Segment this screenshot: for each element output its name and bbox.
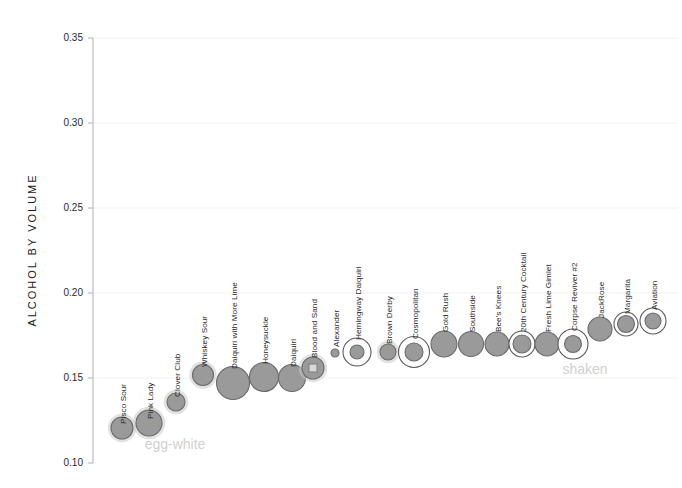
data-point-label: Daiquiri with More Lime: [230, 282, 239, 369]
group-annotation-shaken: shaken: [562, 361, 607, 377]
data-point[interactable]: [217, 367, 250, 400]
y-axis-tick-label: 0.35: [64, 32, 84, 43]
data-point-label: Honeysuckle: [261, 316, 270, 364]
y-axis-tick-label: 0.15: [64, 372, 84, 383]
data-point-marker[interactable]: [405, 343, 423, 361]
data-point-label: Brown Derby: [385, 295, 394, 344]
data-point-marker[interactable]: [350, 345, 364, 359]
data-point-label: Pink Lady: [146, 382, 155, 419]
data-point[interactable]: [485, 332, 509, 356]
data-point-label: Alexander: [332, 309, 341, 347]
y-axis-title: ALCOHOL BY VOLUME: [26, 173, 38, 326]
data-point-label: Margarita: [623, 279, 632, 314]
data-point-label: Whiskey Sour: [200, 316, 209, 367]
data-point[interactable]: [431, 331, 457, 357]
data-point[interactable]: [614, 312, 638, 336]
data-point-marker[interactable]: [535, 332, 559, 356]
data-point-label: Cosmopolitan: [411, 288, 420, 339]
y-axis-tick-label: 0.25: [64, 202, 84, 213]
y-axis-tick-labels: 0.350.300.250.200.150.10: [64, 32, 84, 468]
data-point-marker[interactable]: [380, 344, 396, 360]
data-point-label: Corpse Reviver #2: [570, 262, 579, 331]
data-point-marker[interactable]: [565, 336, 582, 353]
data-point-label: Daiquiri: [289, 339, 298, 367]
chart-plot-area: 0.350.300.250.200.150.10 ALCOHOL BY VOLU…: [0, 0, 682, 488]
data-point-label: Pisco Sour: [119, 384, 128, 424]
data-point[interactable]: [558, 329, 588, 359]
data-point-inner-mark: [309, 364, 317, 372]
data-point-label: Aviation: [650, 281, 659, 310]
data-point-label: JackRose: [597, 281, 606, 318]
data-point-label: Bee's Knees: [494, 286, 503, 332]
data-point-marker[interactable]: [431, 331, 457, 357]
data-point-label: Clover Club: [173, 353, 182, 397]
data-point[interactable]: [459, 332, 484, 357]
data-point-label: Fresh Lime Gimlet: [544, 264, 553, 332]
y-axis-tick-label: 0.20: [64, 287, 84, 298]
data-point-label: 20th Century Cocktail: [519, 252, 528, 332]
data-point[interactable]: [250, 363, 279, 392]
data-point-marker[interactable]: [513, 335, 531, 353]
group-annotation-egg-white: egg-white: [145, 436, 206, 452]
data-point-marker[interactable]: [618, 316, 635, 333]
data-point[interactable]: [399, 337, 430, 368]
data-point-label: Gold Rush: [441, 293, 450, 332]
data-point-marker[interactable]: [459, 332, 484, 357]
data-point[interactable]: [640, 308, 666, 334]
y-axis-tick-label: 0.30: [64, 117, 84, 128]
y-axis-tick-label: 0.10: [64, 457, 84, 468]
data-point-marker[interactable]: [588, 317, 612, 341]
data-point-marker[interactable]: [250, 363, 279, 392]
data-point-label: Blood and Sand: [310, 299, 319, 358]
data-point-marker[interactable]: [331, 349, 339, 357]
data-point[interactable]: [331, 349, 339, 357]
data-point-marker[interactable]: [485, 332, 509, 356]
data-point[interactable]: [509, 331, 535, 357]
data-point-marker[interactable]: [217, 367, 250, 400]
data-point-marker[interactable]: [645, 313, 661, 329]
data-point[interactable]: [343, 338, 371, 366]
data-point[interactable]: [535, 332, 559, 356]
data-point[interactable]: [588, 317, 612, 341]
scatter-chart-container: 0.350.300.250.200.150.10 ALCOHOL BY VOLU…: [0, 0, 682, 488]
data-point-label: Southside: [468, 295, 477, 332]
data-point-label: Hemingway Daiquiri: [354, 266, 363, 340]
y-axis: [88, 38, 93, 463]
